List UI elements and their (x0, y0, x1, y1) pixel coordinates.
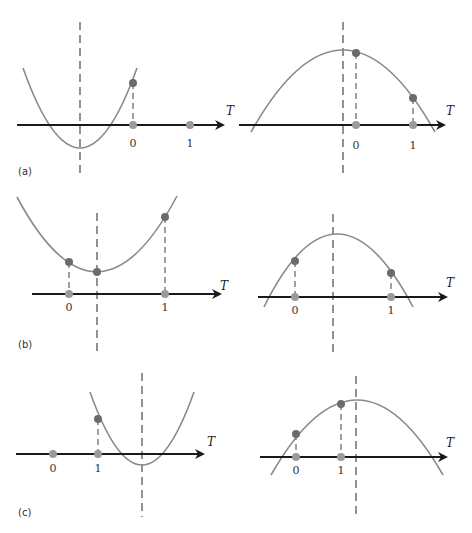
axis-label-T: T (207, 435, 216, 449)
axis-point (161, 290, 169, 298)
curve-point (94, 415, 102, 423)
tick-label-0: 0 (292, 304, 299, 317)
subplot-1-right: 01T (258, 214, 455, 357)
axis-point (352, 121, 360, 129)
axis-point (291, 293, 299, 301)
axis-point (292, 453, 300, 461)
curve-point (409, 94, 417, 102)
tick-label-0: 0 (66, 301, 73, 314)
parabola-diagram: 01T(a)01T01T(b)01T01T(c)01T (0, 0, 472, 533)
curve-point (65, 258, 73, 266)
subplot-2-left: 01T(c) (16, 373, 216, 518)
subplot-0-left: 01T(a) (17, 22, 235, 178)
curve-point (352, 49, 360, 57)
subplot-0-right: 01T (239, 22, 455, 178)
panels-container: 01T(a)01T01T(b)01T01T(c)01T (16, 22, 455, 518)
tick-label-1: 1 (187, 137, 194, 150)
axis-point (337, 453, 345, 461)
axis-point (409, 121, 417, 129)
axis-label-T: T (446, 436, 455, 450)
curve-point (291, 257, 299, 265)
curve-point (337, 400, 345, 408)
axis-point (186, 121, 194, 129)
panel-label: (b) (18, 339, 32, 350)
axis-point (387, 293, 395, 301)
tick-label-0: 0 (353, 139, 360, 152)
axis-label-T: T (446, 104, 455, 118)
axis-label-T: T (220, 279, 229, 293)
panel-label: (a) (18, 166, 32, 177)
subplot-1-left: 01T(b) (17, 196, 229, 355)
tick-label-1: 1 (388, 304, 395, 317)
tick-label-0: 0 (130, 137, 137, 150)
axis-label-T: T (226, 104, 235, 118)
tick-label-1: 1 (338, 464, 345, 477)
curve-point (387, 269, 395, 277)
curve-point (292, 430, 300, 438)
tick-label-1: 1 (162, 301, 169, 314)
axis-label-T: T (446, 276, 455, 290)
axis-point (129, 121, 137, 129)
axis-point (94, 450, 102, 458)
curve-point (161, 213, 169, 221)
tick-label-1: 1 (95, 462, 102, 475)
subplot-2-right: 01T (260, 376, 455, 518)
curve-point (93, 268, 101, 276)
curve-point (129, 79, 137, 87)
axis-point (65, 290, 73, 298)
tick-label-0: 0 (293, 464, 300, 477)
tick-label-0: 0 (50, 462, 57, 475)
tick-label-1: 1 (410, 139, 417, 152)
panel-label: (c) (18, 507, 31, 518)
axis-point (49, 450, 57, 458)
